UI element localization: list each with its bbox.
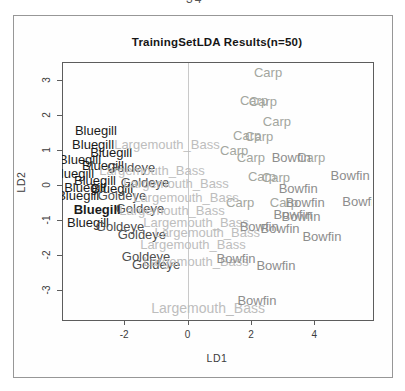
y-axis-tick-label: -2 <box>41 250 52 259</box>
label-carp: Carp <box>263 115 291 128</box>
y-axis-tick-label: 3 <box>41 77 52 83</box>
label-carp: Carp <box>249 95 277 108</box>
x-axis-tick-label: 0 <box>185 329 191 340</box>
label-bluegill: Bluegill <box>62 189 99 202</box>
plot-title: TrainingSetLDA Results(n=50) <box>62 36 372 48</box>
label-largemouth_bass: Largemouth_Bass <box>140 238 246 251</box>
x-axis-tick <box>188 320 189 325</box>
x-axis-tick <box>124 320 125 325</box>
label-bowfin: Bowfin <box>256 259 295 272</box>
x-axis-title: LD1 <box>62 352 372 364</box>
label-bowfin: Bowfin <box>342 195 372 208</box>
label-bowfin: Bowfin <box>279 182 318 195</box>
y-axis-tick-label: -3 <box>41 285 52 294</box>
x-axis-tick-label: -2 <box>120 329 129 340</box>
label-largemouth_bass: Largemouth_Bass <box>114 138 220 151</box>
y-axis-tick-label: 0 <box>41 182 52 188</box>
label-bowfin: Bowfin <box>302 230 341 243</box>
label-carp: Carp <box>245 130 273 143</box>
label-carp: Carp <box>254 66 282 79</box>
x-axis-tick-label: 2 <box>248 329 254 340</box>
y-axis-tick-label: 1 <box>41 147 52 153</box>
label-bowfin: Bowfin <box>237 294 276 307</box>
x-axis-tick <box>314 320 315 325</box>
label-bowfin: Bowfin <box>217 252 256 265</box>
label-largemouth_bass: Largemouth_Bass <box>123 177 229 190</box>
label-carp: Carp <box>237 151 265 164</box>
label-bowfin: Bowfin <box>272 151 311 164</box>
data-label-layer: CarpCarpCarpCarpCarpCarpCarpCarpCarpCarp… <box>62 62 372 319</box>
x-axis-tick-label: 4 <box>312 329 318 340</box>
page-number-partial: 34 <box>186 0 203 6</box>
x-axis-tick <box>251 320 252 325</box>
label-bluegill: Bluegill <box>75 124 117 137</box>
label-bluegill: Bluegill <box>74 203 121 216</box>
label-bowfin: Bowfin <box>261 222 300 235</box>
y-axis-tick-label: 2 <box>41 112 52 118</box>
y-axis-tick-label: -1 <box>41 215 52 224</box>
y-axis-title: LD2 <box>15 172 27 193</box>
label-bowfin: Bowfin <box>331 169 370 182</box>
scanned-figure-page: 34 TrainingSetLDA Results(n=50) -2024-3-… <box>0 0 405 391</box>
